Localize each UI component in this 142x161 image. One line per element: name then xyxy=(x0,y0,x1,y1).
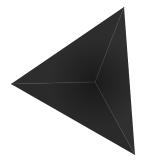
apex-shadow xyxy=(11,7,135,155)
tetrahedron xyxy=(11,7,135,155)
tetrahedron-render xyxy=(0,0,142,161)
